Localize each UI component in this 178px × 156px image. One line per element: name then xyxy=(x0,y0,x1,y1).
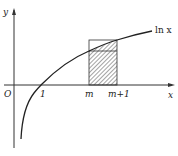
tick-label-1: 1 xyxy=(40,89,46,99)
shaded-rectangle xyxy=(89,40,117,85)
origin-label: O xyxy=(4,89,12,99)
tick-label-m: m xyxy=(85,89,94,99)
tick-label-m-plus-1: m+1 xyxy=(108,89,130,99)
curve-label: ln x xyxy=(155,25,172,35)
y-axis-label: y xyxy=(2,7,9,17)
y-axis-arrow-icon xyxy=(12,8,16,15)
y-axis xyxy=(12,8,16,148)
ln-graph: y x O 1 m m+1 ln x xyxy=(0,0,178,156)
x-axis-arrow-icon xyxy=(168,83,175,87)
x-axis-label: x xyxy=(168,90,173,100)
